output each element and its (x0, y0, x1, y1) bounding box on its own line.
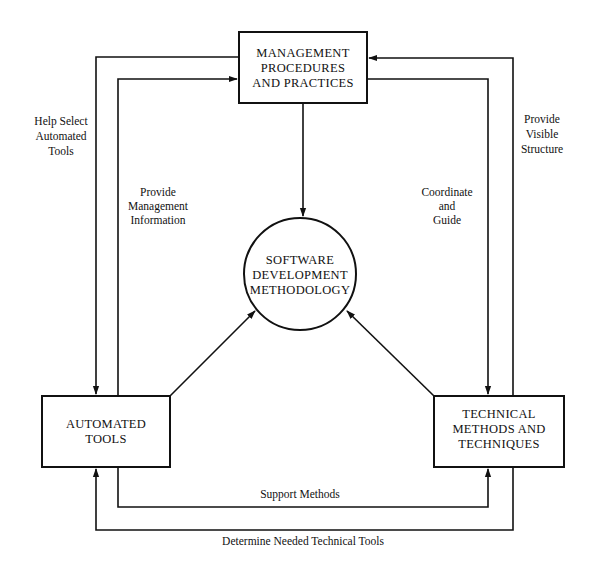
technical-line-3: TECHNIQUES (458, 437, 539, 451)
label-provide-mgmt-info: Provide Management Information (128, 186, 189, 226)
coordinate-guide-line-1: Coordinate (421, 186, 472, 198)
label-coordinate-guide: Coordinate and Guide (421, 186, 472, 226)
arrow-coordinate-guide (367, 79, 488, 394)
methodology-line-2: DEVELOPMENT (252, 268, 348, 282)
methodology-line-1: SOFTWARE (266, 253, 334, 267)
label-help-select: Help Select Automated Tools (34, 115, 88, 157)
automated-tools-line-2: TOOLS (85, 432, 127, 446)
help-select-line-2: Automated (35, 130, 86, 142)
node-technical: TECHNICAL METHODS AND TECHNIQUES (434, 396, 564, 467)
management-line-1: MANAGEMENT (256, 46, 349, 60)
help-select-line-1: Help Select (34, 115, 88, 128)
coordinate-guide-line-3: Guide (433, 214, 461, 226)
node-management: MANAGEMENT PROCEDURES AND PRACTICES (239, 32, 367, 103)
provide-mgmt-info-line-2: Management (128, 200, 189, 213)
automated-tools-line-1: AUTOMATED (66, 417, 146, 431)
arrow-technical-to-methodology (347, 311, 434, 396)
methodology-diagram: MANAGEMENT PROCEDURES AND PRACTICES SOFT… (0, 0, 600, 572)
arrow-support-methods (118, 467, 488, 507)
node-automated-tools: AUTOMATED TOOLS (42, 396, 170, 467)
technical-line-2: METHODS AND (452, 422, 545, 436)
provide-visible-line-3: Structure (521, 143, 563, 155)
arrow-provide-visible-structure (369, 58, 513, 396)
label-support-methods: Support Methods (260, 488, 340, 501)
management-line-2: PROCEDURES (261, 61, 345, 75)
node-methodology: SOFTWARE DEVELOPMENT METHODOLOGY (244, 218, 356, 330)
management-line-3: AND PRACTICES (252, 76, 353, 90)
technical-line-1: TECHNICAL (462, 407, 536, 421)
provide-mgmt-info-line-1: Provide (140, 186, 176, 198)
arrow-provide-mgmt-info (118, 79, 237, 396)
help-select-line-3: Tools (48, 145, 74, 157)
label-provide-visible: Provide Visible Structure (521, 113, 563, 155)
provide-visible-line-1: Provide (524, 113, 560, 125)
arrow-tools-to-methodology (170, 311, 255, 396)
label-determine-tools: Determine Needed Technical Tools (222, 535, 384, 547)
provide-mgmt-info-line-3: Information (131, 214, 186, 226)
methodology-line-3: METHODOLOGY (250, 283, 351, 297)
provide-visible-line-2: Visible (526, 128, 559, 140)
coordinate-guide-line-2: and (439, 200, 456, 212)
